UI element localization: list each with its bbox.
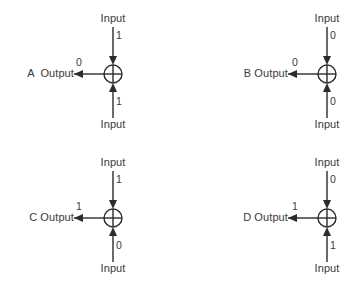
output-label: C Output — [0, 211, 74, 223]
input-top-arrowhead — [323, 200, 331, 209]
output-label: A Output — [0, 67, 74, 79]
input-top-arrowhead — [109, 200, 117, 209]
input-bottom-label: Input — [297, 262, 357, 274]
input-bottom-label: Input — [297, 118, 357, 130]
xor-panel-a: Input Input A Output 1 1 0 — [0, 0, 179, 143]
input-bottom-arrowhead — [109, 83, 117, 92]
input-top-value: 0 — [330, 30, 336, 41]
input-bottom-arrowhead — [109, 227, 117, 236]
input-top-arrowhead — [109, 56, 117, 65]
input-top-value: 0 — [330, 174, 336, 185]
xor-panel-d: Input Input D Output 0 1 1 — [180, 144, 359, 287]
output-arrowhead — [74, 70, 83, 78]
output-arrowhead — [74, 214, 83, 222]
input-top-value: 1 — [116, 30, 122, 41]
input-top-label: Input — [297, 156, 357, 168]
input-bottom-value: 0 — [330, 96, 336, 107]
input-top-value: 1 — [116, 174, 122, 185]
input-top-label: Input — [83, 156, 143, 168]
output-arrowhead — [288, 214, 297, 222]
input-top-label: Input — [83, 12, 143, 24]
xor-panel-c: Input Input C Output 1 0 1 — [0, 144, 179, 287]
output-value: 1 — [76, 201, 82, 212]
input-bottom-label: Input — [83, 262, 143, 274]
input-bottom-value: 1 — [116, 96, 122, 107]
output-label: D Output — [204, 211, 288, 223]
output-arrowhead — [288, 70, 297, 78]
input-bottom-value: 1 — [330, 240, 336, 251]
xor-gate-figure: Input Input A Output 1 1 0 Input Input B… — [0, 0, 359, 287]
input-bottom-value: 0 — [116, 240, 122, 251]
input-top-arrowhead — [323, 56, 331, 65]
input-bottom-arrowhead — [323, 83, 331, 92]
output-value: 0 — [76, 57, 82, 68]
input-bottom-arrowhead — [323, 227, 331, 236]
output-label: B Output — [204, 67, 288, 79]
output-value: 1 — [292, 201, 298, 212]
output-value: 0 — [292, 57, 298, 68]
input-top-label: Input — [297, 12, 357, 24]
xor-panel-b: Input Input B Output 0 0 0 — [180, 0, 359, 143]
input-bottom-label: Input — [83, 118, 143, 130]
